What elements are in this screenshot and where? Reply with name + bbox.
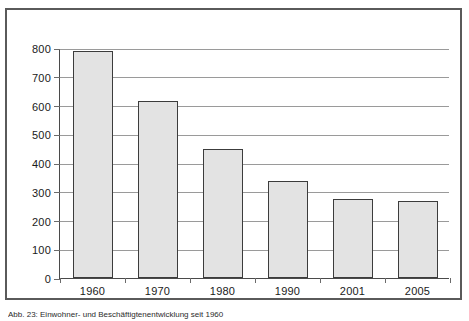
gridline <box>60 221 449 222</box>
gridline <box>60 77 449 78</box>
gridline <box>60 135 449 136</box>
x-axis-tick <box>190 278 191 283</box>
gridline <box>60 250 449 251</box>
x-axis-tick <box>320 278 321 283</box>
x-axis-tick <box>385 278 386 283</box>
y-axis-tick <box>54 77 60 78</box>
y-axis-tick-label: 0 <box>45 273 51 285</box>
y-axis-tick <box>54 221 60 222</box>
y-axis-tick-label: 200 <box>32 216 51 228</box>
figure-caption: Abb. 23: Einwohner- und Beschäftigtenent… <box>8 310 463 320</box>
x-axis-tick <box>60 278 61 283</box>
x-axis-tick-label: 1960 <box>80 285 105 297</box>
x-axis-tick-label: 1970 <box>145 285 170 297</box>
x-axis-tick-label: 2005 <box>405 285 430 297</box>
x-axis-tick-label: 1990 <box>275 285 300 297</box>
y-axis-tick <box>54 164 60 165</box>
bar-2005 <box>398 201 438 278</box>
chart-frame: 0100200300400500600700800196019701980199… <box>5 8 462 300</box>
y-axis-tick <box>54 250 60 251</box>
figure-container: 0100200300400500600700800196019701980199… <box>0 0 469 321</box>
y-axis-tick <box>54 192 60 193</box>
bar-1990 <box>268 181 308 278</box>
x-axis-tick-label: 2001 <box>340 285 365 297</box>
gridline <box>60 164 449 165</box>
y-axis-tick-label: 100 <box>32 244 51 256</box>
y-axis-tick-label: 600 <box>32 101 51 113</box>
y-axis-tick-label: 500 <box>32 129 51 141</box>
bar-1960 <box>73 51 113 278</box>
plot-area: 0100200300400500600700800196019701980199… <box>59 49 449 279</box>
y-axis-tick <box>54 49 60 50</box>
y-axis-tick-label: 300 <box>32 187 51 199</box>
x-axis-tick-label: 1980 <box>210 285 235 297</box>
x-axis-tick <box>450 278 451 283</box>
y-axis-tick <box>54 135 60 136</box>
x-axis-tick <box>125 278 126 283</box>
bar-1970 <box>138 101 178 278</box>
gridline <box>60 192 449 193</box>
bar-2001 <box>333 199 373 278</box>
bar-1980 <box>203 149 243 278</box>
gridline <box>60 49 449 50</box>
y-axis-tick <box>54 106 60 107</box>
y-axis-tick-label: 800 <box>32 43 51 55</box>
y-axis-tick-label: 700 <box>32 72 51 84</box>
y-axis-tick-label: 400 <box>32 158 51 170</box>
gridline <box>60 106 449 107</box>
x-axis-tick <box>255 278 256 283</box>
